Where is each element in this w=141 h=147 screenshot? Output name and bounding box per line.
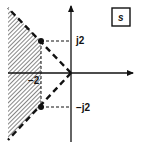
label-pos-imag: j2 — [75, 35, 85, 46]
plane-label: s — [118, 12, 124, 23]
label-neg-imag: −j2 — [76, 102, 91, 113]
pole-upper — [38, 38, 44, 44]
pole-lower — [38, 104, 44, 110]
shaded-region — [8, 8, 41, 140]
label-neg-real: −2 — [28, 75, 40, 86]
s-plane-diagram: j2 −j2 −2 s — [0, 0, 141, 147]
